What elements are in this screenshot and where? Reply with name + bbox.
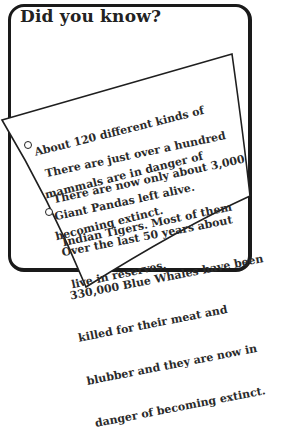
fact-line: blubber and they are now in <box>85 337 281 389</box>
bullet-icon <box>45 208 53 216</box>
fact-line: killed for their meat and <box>77 294 273 346</box>
fact-line: danger of becoming extinct. <box>94 380 290 431</box>
bullet-icon <box>24 141 32 149</box>
fact-line: 330,000 Blue Whales have been <box>69 252 265 304</box>
fact-4: Over the last 50 years about 330,000 Blu… <box>55 180 295 431</box>
fact-line: Over the last 50 years about <box>61 209 257 261</box>
